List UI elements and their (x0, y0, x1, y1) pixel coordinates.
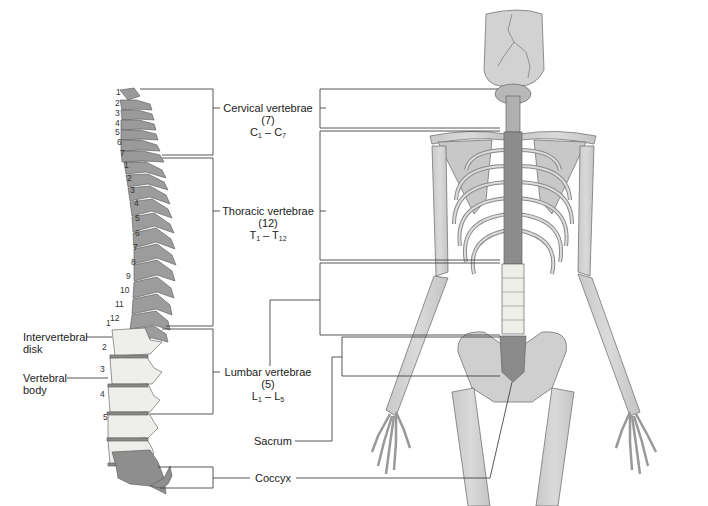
region-range: T1 – T12 (208, 229, 328, 241)
lumbar-number: 3 (100, 365, 105, 374)
thoracic-number: 8 (131, 258, 136, 267)
lumbar-spine-posterior (502, 264, 524, 334)
thoracic-number: 10 (120, 286, 129, 295)
label-line: Vertebral (23, 372, 67, 384)
cervical-number: 1 (116, 88, 121, 97)
region-name: Thoracic vertebrae (208, 205, 328, 217)
cervical-number: 5 (115, 128, 120, 137)
thoracic-number: 2 (127, 174, 132, 183)
region-count: (12) (208, 217, 328, 229)
thoracic-number: 12 (110, 314, 119, 323)
label-line: disk (23, 343, 88, 355)
thoracic-number: 7 (133, 243, 138, 252)
lumbar-vertebrae-label: Lumbar vertebrae (5) L1 – L5 (208, 366, 328, 402)
lumbar-number: 4 (100, 390, 105, 399)
cervical-number: 6 (117, 138, 122, 147)
lumbar-number: 2 (102, 343, 107, 352)
lumbar-number: 5 (103, 413, 108, 422)
region-range: L1 – L5 (208, 390, 328, 402)
thoracic-spine-posterior (504, 132, 522, 264)
lumbar-number: 1 (106, 319, 111, 328)
intervertebral-disk-label: Intervertebral disk (23, 331, 88, 355)
thoracic-number: 9 (126, 272, 131, 281)
skull (484, 10, 544, 86)
thoracic-vertebrae-label: Thoracic vertebrae (12) T1 – T12 (208, 205, 328, 241)
lumbar-segment (108, 328, 162, 464)
label-line: body (23, 384, 67, 396)
region-count: (5) (208, 378, 328, 390)
thoracic-number: 1 (124, 161, 129, 170)
cervical-segment (120, 88, 164, 162)
vertebral-body-label: Vertebral body (23, 372, 67, 396)
region-name: Lumbar vertebrae (208, 366, 328, 378)
region-count: (7) (208, 114, 328, 126)
region-range: C1 – C7 (208, 126, 328, 138)
cervical-number: 2 (115, 99, 120, 108)
region-name: Cervical vertebrae (208, 102, 328, 114)
posterior-skeleton (372, 10, 656, 506)
coccyx-label: Coccyx (252, 472, 294, 484)
thoracic-number: 6 (135, 229, 140, 238)
label-line: Intervertebral (23, 331, 88, 343)
spine-diagram: 1 2 3 4 5 6 7 1 2 3 4 5 6 7 8 9 10 11 12… (0, 0, 708, 506)
cervical-number: 7 (120, 149, 125, 158)
cervical-number: 3 (115, 109, 120, 118)
cervical-vertebrae-label: Cervical vertebrae (7) C1 – C7 (208, 102, 328, 138)
thoracic-number: 11 (115, 300, 124, 309)
thoracic-number: 4 (134, 199, 139, 208)
thoracic-number: 3 (130, 186, 135, 195)
lateral-spine (107, 88, 176, 494)
sacrum-label: Sacrum (251, 435, 295, 447)
diagram-artwork (0, 0, 708, 506)
thoracic-number: 5 (135, 214, 140, 223)
